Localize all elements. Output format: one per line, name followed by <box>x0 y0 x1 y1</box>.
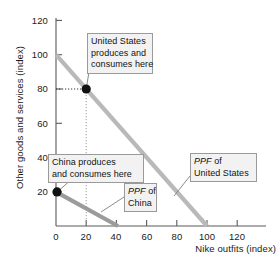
label-ppf-us-line1: PPF of <box>194 156 253 168</box>
callout-united-states: United States produces and consumes here <box>87 33 153 74</box>
callout-china: China produces and consumes here <box>48 154 144 183</box>
ppf-chart: 120 100 80 60 40 20 0 20 40 60 80 100 12… <box>0 0 280 261</box>
label-ppf-us-line2: United States <box>194 168 253 180</box>
ppf-china-line <box>56 192 118 226</box>
y-tick-label-120: 120 <box>22 15 48 26</box>
y-tick-label-20: 20 <box>22 186 48 197</box>
data-point-united-states <box>82 84 91 93</box>
x-tick-label-20: 20 <box>74 231 98 242</box>
ppf-us-emph: PPF <box>194 156 212 166</box>
data-point-china <box>52 187 61 196</box>
callout-us-line1: United States <box>91 36 146 46</box>
y-tick-label-40: 40 <box>22 152 48 163</box>
x-tick-label-80: 80 <box>165 231 189 242</box>
ppf-us-rest: of <box>212 156 222 166</box>
label-ppf-china-line1: PPF of <box>128 186 153 198</box>
leader-line-ppf-china <box>101 197 124 212</box>
y-tick-label-60: 60 <box>22 118 48 129</box>
ppf-china-rest: of <box>146 186 156 196</box>
y-tick-label-80: 80 <box>22 83 48 94</box>
y-axis-title: Other goods and services (index) <box>14 38 25 198</box>
label-ppf-china-line2: China <box>128 198 153 210</box>
callout-us-line3: consumes here <box>91 59 153 69</box>
callout-china-line1: China produces <box>52 157 116 167</box>
x-tick-label-120: 120 <box>225 231 249 242</box>
ppf-china-emph: PPF <box>128 186 146 196</box>
x-tick-label-0: 0 <box>44 231 68 242</box>
y-tick-label-100: 100 <box>22 49 48 60</box>
x-axis-title: Nike outfits (index) <box>195 243 276 254</box>
callout-china-line2: and consumes here <box>52 169 132 179</box>
x-tick-label-60: 60 <box>135 231 159 242</box>
callout-us-line2: produces and <box>91 48 146 58</box>
label-ppf-united-states: PPF of United States <box>190 153 257 182</box>
x-tick-label-100: 100 <box>195 231 219 242</box>
x-tick-label-40: 40 <box>104 231 128 242</box>
label-ppf-china: PPF of China <box>124 183 157 212</box>
leader-line-ppf-us <box>174 176 190 196</box>
